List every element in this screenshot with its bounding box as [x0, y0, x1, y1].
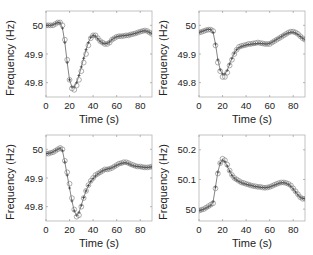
x-tick-label: 60 [111, 100, 122, 111]
y-tick-label: 50 [32, 144, 43, 155]
axes-box [199, 135, 305, 221]
axes-box [199, 11, 305, 97]
x-tick-label: 40 [241, 100, 252, 111]
x-tick-label: 0 [196, 224, 201, 235]
y-tick-label: 50 [185, 204, 196, 215]
y-axis-label: Frequency (Hz) [4, 144, 16, 220]
y-tick-label: 49.8 [178, 77, 197, 88]
x-tick-label: 60 [111, 224, 122, 235]
x-axis-label: Time (s) [79, 113, 119, 125]
x-tick-label: 80 [135, 100, 146, 111]
y-axis-label: Frequency (Hz) [157, 144, 169, 220]
x-axis-label: Time (s) [232, 237, 272, 249]
y-tick-label: 49.8 [25, 77, 44, 88]
x-tick-label: 40 [88, 224, 99, 235]
x-tick-label: 40 [241, 224, 252, 235]
x-tick-label: 60 [264, 224, 275, 235]
x-tick-label: 60 [264, 100, 275, 111]
y-tick-label: 50.2 [178, 144, 197, 155]
y-tick-label: 49.9 [25, 49, 44, 60]
axes-box [46, 135, 152, 221]
x-tick-label: 0 [43, 224, 48, 235]
y-tick-label: 50.1 [178, 174, 197, 185]
subplot-top-left: 02040608049.849.950Time (s)Frequency (Hz… [4, 11, 154, 125]
x-tick-label: 20 [64, 224, 75, 235]
y-tick-label: 49.9 [178, 49, 197, 60]
subplot-bottom-right: 0204060805050.150.2Time (s)Frequency (Hz… [157, 135, 307, 249]
y-tick-label: 49.8 [25, 201, 44, 212]
x-tick-label: 40 [88, 100, 99, 111]
x-tick-label: 0 [43, 100, 48, 111]
y-axis-label: Frequency (Hz) [157, 20, 169, 96]
y-tick-label: 50 [32, 20, 43, 31]
x-axis-label: Time (s) [232, 113, 272, 125]
x-tick-label: 20 [217, 100, 228, 111]
figure: 02040608049.849.950Time (s)Frequency (Hz… [0, 0, 313, 255]
subplot-top-right: 02040608049.849.950Time (s)Frequency (Hz… [157, 11, 307, 125]
x-tick-label: 80 [135, 224, 146, 235]
subplot-bottom-left: 02040608049.849.950Time (s)Frequency (Hz… [4, 135, 154, 249]
x-tick-label: 0 [196, 100, 201, 111]
y-tick-label: 50 [185, 20, 196, 31]
x-axis-label: Time (s) [79, 237, 119, 249]
x-tick-label: 20 [64, 100, 75, 111]
x-tick-label: 20 [217, 224, 228, 235]
x-tick-label: 80 [288, 100, 299, 111]
y-axis-label: Frequency (Hz) [4, 20, 16, 96]
y-tick-label: 49.9 [25, 173, 44, 184]
x-tick-label: 80 [288, 224, 299, 235]
